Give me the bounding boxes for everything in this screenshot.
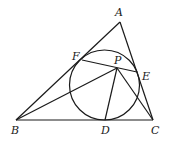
label-c: C [151, 124, 160, 137]
label-f: F [71, 50, 80, 63]
side-ab [16, 22, 120, 120]
label-b: B [10, 124, 19, 137]
label-a: A [114, 6, 123, 19]
label-p: P [113, 54, 122, 67]
segment-pd [105, 68, 117, 120]
label-e: E [141, 70, 150, 83]
interior-segments [16, 60, 153, 120]
geometry-diagram: A B C D E F P [0, 0, 170, 147]
segment-bp [16, 68, 117, 120]
segment-fe [82, 60, 137, 72]
label-d: D [100, 124, 110, 137]
point-labels: A B C D E F P [10, 6, 160, 137]
